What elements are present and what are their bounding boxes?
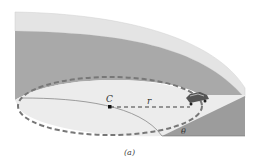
center-label: C <box>106 94 113 104</box>
banked-curve-diagram: C r θ <box>0 0 259 162</box>
radius-label: r <box>147 96 152 106</box>
center-point <box>108 105 112 109</box>
angle-label: θ <box>181 127 186 136</box>
figure-caption: (a) <box>0 148 259 157</box>
